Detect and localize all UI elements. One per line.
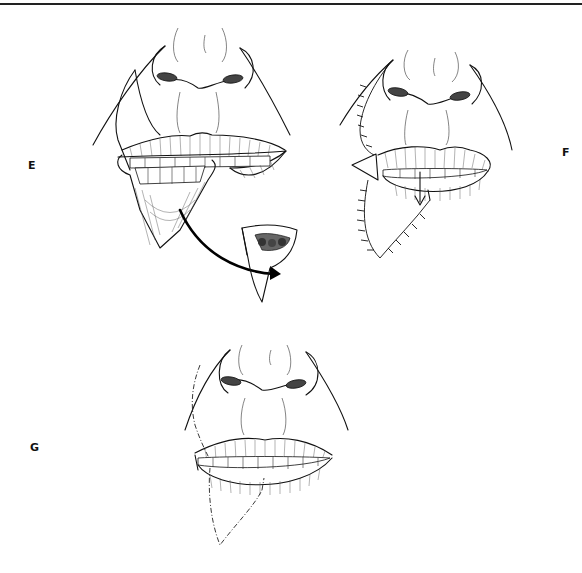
panel-f-drawing <box>340 50 512 258</box>
illustration-canvas <box>0 0 582 573</box>
panel-g-drawing <box>185 345 348 545</box>
panel-e-drawing <box>93 28 297 302</box>
